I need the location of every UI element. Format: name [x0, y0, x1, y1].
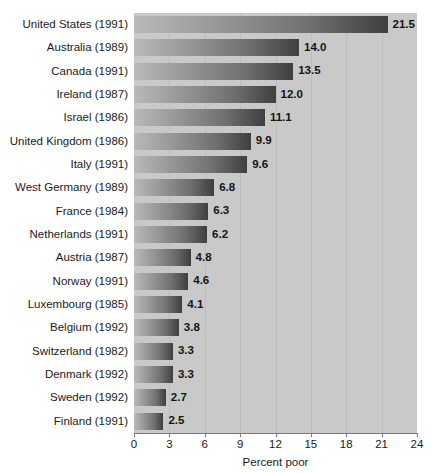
chart-row: Australia (1989)14.0: [0, 36, 432, 59]
bar-value-label: 3.3: [178, 345, 194, 357]
chart-row: Israel (1986)11.1: [0, 106, 432, 129]
tick-label-21: 21: [367, 439, 397, 451]
chart-row: Finland (1991)2.5: [0, 410, 432, 433]
bar-group: 3.3: [134, 366, 194, 383]
bar-value-label: 2.7: [171, 392, 187, 404]
bar-group: 12.0: [134, 86, 303, 103]
tick-label-12: 12: [261, 439, 291, 451]
tick-label-3: 3: [154, 439, 184, 451]
chart-row: Denmark (1992)3.3: [0, 363, 432, 386]
bar: [134, 179, 214, 196]
bar: [134, 86, 276, 103]
chart-row: Belgium (1992)3.8: [0, 316, 432, 339]
category-label: Australia (1989): [0, 42, 128, 54]
chart-row: Netherlands (1991)6.2: [0, 223, 432, 246]
category-label: Ireland (1987): [0, 89, 128, 101]
bar-group: 9.6: [134, 156, 268, 173]
bar-group: 13.5: [134, 63, 321, 80]
bar-value-label: 4.6: [193, 275, 209, 287]
tick-mark-21: [382, 433, 383, 437]
chart-row: Sweden (1992)2.7: [0, 386, 432, 409]
category-label: Denmark (1992): [0, 369, 128, 381]
bar-group: 2.5: [134, 413, 184, 430]
tick-mark-6: [205, 433, 206, 437]
tick-label-18: 18: [331, 439, 361, 451]
bar-value-label: 9.6: [252, 159, 268, 171]
tick-label-0: 0: [119, 439, 149, 451]
bar-group: 11.1: [134, 109, 292, 126]
tick-mark-24: [417, 433, 418, 437]
category-label: Italy (1991): [0, 159, 128, 171]
bar: [134, 16, 388, 33]
category-label: Israel (1986): [0, 112, 128, 124]
bar-group: 2.7: [134, 389, 187, 406]
bar-group: 4.6: [134, 273, 209, 290]
bar-group: 3.8: [134, 319, 200, 336]
tick-mark-3: [169, 433, 170, 437]
chart-row: Italy (1991)9.6: [0, 153, 432, 176]
category-label: West Germany (1989): [0, 182, 128, 194]
bar: [134, 109, 265, 126]
bar-value-label: 6.2: [212, 229, 228, 241]
bar-value-label: 6.3: [213, 205, 229, 217]
tick-mark-18: [346, 433, 347, 437]
category-label: Belgium (1992): [0, 322, 128, 334]
bar-group: 6.2: [134, 226, 228, 243]
tick-mark-9: [240, 433, 241, 437]
category-label: United Kingdom (1986): [0, 136, 128, 148]
bar-group: 14.0: [134, 39, 326, 56]
category-label: Netherlands (1991): [0, 229, 128, 241]
bar-value-label: 13.5: [298, 65, 320, 77]
chart-row: Canada (1991)13.5: [0, 60, 432, 83]
category-label: Finland (1991): [0, 416, 128, 428]
tick-label-15: 15: [296, 439, 326, 451]
bar-group: 3.3: [134, 343, 194, 360]
tick-mark-12: [276, 433, 277, 437]
x-axis-title: Percent poor: [134, 457, 417, 469]
bar-group: 4.8: [134, 249, 212, 266]
bar: [134, 296, 182, 313]
bar: [134, 389, 166, 406]
bar-value-label: 12.0: [281, 89, 303, 101]
chart-row: France (1984)6.3: [0, 200, 432, 223]
chart-row: Luxembourg (1985)4.1: [0, 293, 432, 316]
bar-value-label: 4.1: [187, 299, 203, 311]
category-label: Norway (1991): [0, 276, 128, 288]
tick-mark-0: [134, 433, 135, 437]
bar: [134, 133, 251, 150]
bar-value-label: 6.8: [219, 182, 235, 194]
bar-value-label: 11.1: [270, 112, 292, 124]
bar: [134, 156, 247, 173]
category-label: Canada (1991): [0, 66, 128, 78]
chart-row: Ireland (1987)12.0: [0, 83, 432, 106]
bar: [134, 39, 299, 56]
bar: [134, 63, 293, 80]
bar-value-label: 3.8: [184, 322, 200, 334]
chart-row: Austria (1987)4.8: [0, 246, 432, 269]
bar-value-label: 21.5: [393, 19, 415, 31]
category-label: United States (1991): [0, 19, 128, 31]
tick-label-9: 9: [225, 439, 255, 451]
chart-row: United Kingdom (1986)9.9: [0, 130, 432, 153]
bar-value-label: 14.0: [304, 42, 326, 54]
bar: [134, 319, 179, 336]
bar: [134, 203, 208, 220]
chart-row: West Germany (1989)6.8: [0, 176, 432, 199]
bar: [134, 413, 163, 430]
bar: [134, 343, 173, 360]
category-label: Austria (1987): [0, 252, 128, 264]
category-label: France (1984): [0, 206, 128, 218]
bar-value-label: 4.8: [196, 252, 212, 264]
bar: [134, 249, 191, 266]
bar-group: 6.3: [134, 203, 229, 220]
bar-group: 21.5: [134, 16, 415, 33]
bar-group: 6.8: [134, 179, 235, 196]
tick-label-6: 6: [190, 439, 220, 451]
bar-value-label: 2.5: [168, 415, 184, 427]
category-label: Switzerland (1982): [0, 346, 128, 358]
category-label: Sweden (1992): [0, 392, 128, 404]
bar: [134, 226, 207, 243]
bar-value-label: 9.9: [256, 135, 272, 147]
bar: [134, 273, 188, 290]
bar-group: 9.9: [134, 133, 272, 150]
